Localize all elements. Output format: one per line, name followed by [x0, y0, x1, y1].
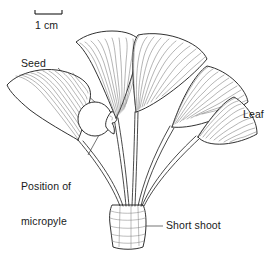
micropyle-label-line1: Position of	[21, 181, 71, 193]
scale-bar-label: 1 cm	[35, 20, 58, 32]
micropyle-label: Position of micropyle	[21, 158, 71, 250]
micropyle-label-line2: micropyle	[21, 216, 71, 228]
ginkgo-figure: .out { fill:#ffffff; stroke:#1a1a1a; str…	[0, 0, 278, 254]
short-shoot-label: Short shoot	[166, 220, 221, 232]
short-shoot	[110, 205, 146, 249]
scale-bar	[35, 10, 62, 14]
seed-label: Seed	[21, 58, 46, 70]
leaf-label: Leaf	[243, 109, 264, 121]
leaf-left	[7, 69, 91, 140]
